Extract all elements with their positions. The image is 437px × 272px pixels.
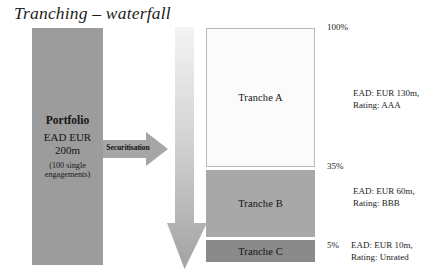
scale-label-top: 100%	[327, 22, 348, 32]
annotation-tranche-b: EAD: EUR 60m, Rating: BBB	[353, 186, 415, 210]
annotation-tranche-c-ead: EAD: EUR 10m,	[351, 240, 413, 252]
tranche-c-block: Tranche C	[206, 240, 315, 262]
annotation-tranche-a-rating: Rating: AAA	[353, 100, 419, 112]
tranche-b-block: Tranche B	[206, 170, 315, 237]
annotation-tranche-a: EAD: EUR 130m, Rating: AAA	[353, 88, 419, 112]
portfolio-note-line1: (100 single	[49, 161, 86, 171]
slide-canvas: Tranching – waterfall Portfolio EAD EUR …	[0, 0, 437, 272]
tranche-c-label: Tranche C	[238, 246, 283, 257]
scale-label-mid: 35%	[327, 161, 344, 171]
page-title: Tranching – waterfall	[14, 3, 171, 24]
annotation-tranche-b-ead: EAD: EUR 60m,	[353, 186, 415, 198]
scale-label-bottom: 5%	[327, 240, 339, 250]
annotation-tranche-c-rating: Rating: Unrated	[351, 252, 413, 264]
annotation-tranche-c: EAD: EUR 10m, Rating: Unrated	[351, 240, 413, 264]
annotation-tranche-a-ead: EAD: EUR 130m,	[353, 88, 419, 100]
portfolio-block: Portfolio EAD EUR 200m (100 single engag…	[32, 28, 103, 265]
tranche-a-block: Tranche A	[206, 28, 315, 167]
securitisation-label: Securitisation	[103, 143, 153, 152]
portfolio-note-line2: engagements)	[45, 170, 90, 180]
portfolio-ead-label: EAD EUR	[44, 131, 91, 144]
annotation-tranche-b-rating: Rating: BBB	[353, 198, 415, 210]
portfolio-ead-amount: 200m	[55, 144, 80, 157]
tranche-b-label: Tranche B	[238, 198, 283, 209]
portfolio-name: Portfolio	[46, 113, 89, 127]
securitisation-arrow: Securitisation	[103, 132, 168, 166]
tranche-a-label: Tranche A	[238, 92, 283, 103]
